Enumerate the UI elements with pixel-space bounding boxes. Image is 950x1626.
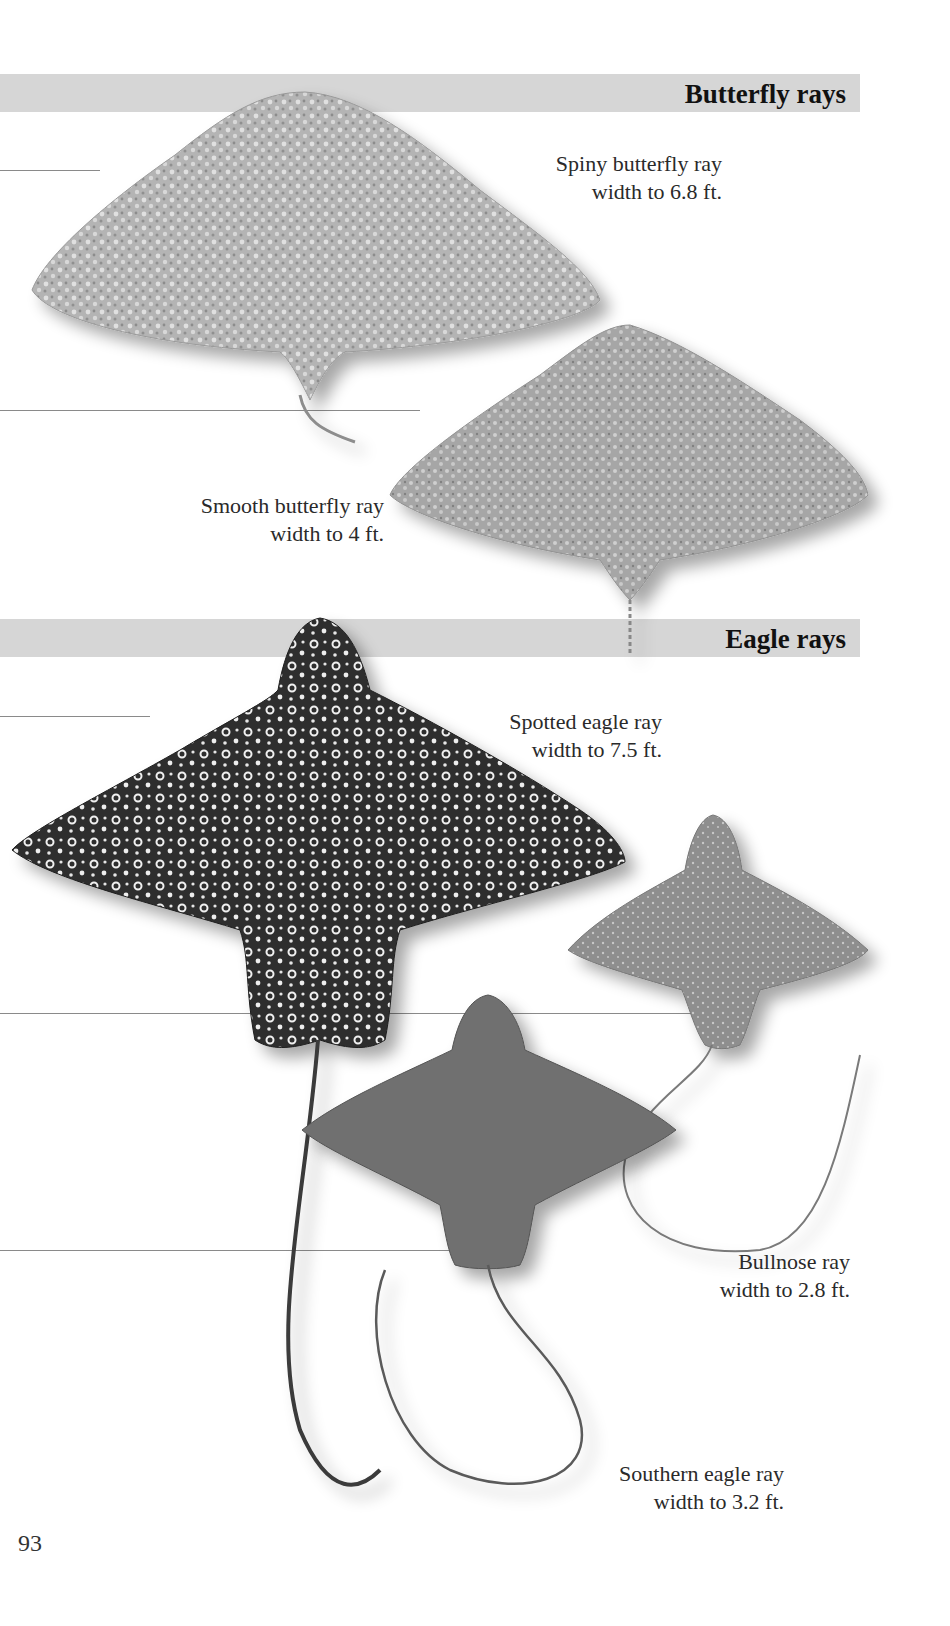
caption-southern-eagle-ray: Southern eagle ray width to 3.2 ft.: [619, 1460, 784, 1516]
caption-bullnose-ray: Bullnose ray width to 2.8 ft.: [720, 1248, 850, 1304]
bullnose-ray-illustration: [568, 815, 868, 1251]
caption-smooth-butterfly-ray: Smooth butterfly ray width to 4 ft.: [201, 492, 384, 548]
species-size: width to 4 ft.: [201, 520, 384, 548]
species-size: width to 3.2 ft.: [619, 1488, 784, 1516]
species-name: Bullnose ray: [720, 1248, 850, 1276]
species-size: width to 7.5 ft.: [509, 736, 662, 764]
ray-illustrations: [0, 0, 950, 1626]
smooth-butterfly-ray-illustration: [390, 325, 868, 655]
species-size: width to 6.8 ft.: [556, 178, 722, 206]
species-name: Spiny butterfly ray: [556, 150, 722, 178]
species-size: width to 2.8 ft.: [720, 1276, 850, 1304]
caption-spiny-butterfly-ray: Spiny butterfly ray width to 6.8 ft.: [556, 150, 722, 206]
species-name: Smooth butterfly ray: [201, 492, 384, 520]
species-name: Spotted eagle ray: [509, 708, 662, 736]
page-number: 93: [18, 1530, 42, 1557]
caption-spotted-eagle-ray: Spotted eagle ray width to 7.5 ft.: [509, 708, 662, 764]
spiny-butterfly-ray-illustration: [32, 92, 600, 442]
species-name: Southern eagle ray: [619, 1460, 784, 1488]
southern-eagle-ray-illustration: [302, 995, 676, 1484]
